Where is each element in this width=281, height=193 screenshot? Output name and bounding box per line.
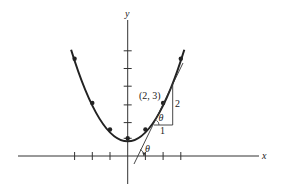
- intercept-angle-label: θ: [145, 143, 150, 154]
- rise-label: 2: [175, 98, 180, 109]
- tangent-point-label: (2, 3): [139, 90, 161, 102]
- run-label: 1: [160, 125, 165, 136]
- triangle-angle-label: θ: [159, 112, 164, 123]
- x-axis-label: x: [261, 150, 267, 161]
- parabola-tangent-diagram: x y 1 2 θ θ: [0, 0, 281, 193]
- y-axis-label: y: [124, 8, 130, 19]
